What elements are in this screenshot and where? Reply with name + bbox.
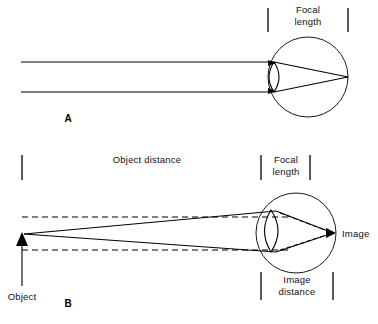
panel-a-lens [269, 62, 279, 92]
panel-b-eyeball [256, 193, 336, 273]
panel-a-label: A [64, 113, 71, 124]
panel-a-group: Focal length A [21, 4, 348, 124]
panel-b-object-distance-label: Object distance [113, 154, 181, 165]
panel-b-object-ray-lower [24, 234, 276, 252]
panel-a-focal-length-label-line2: length [294, 16, 321, 27]
panel-b-focal-length-label-line2: length [272, 166, 299, 177]
panel-b-image-label: Image [342, 228, 369, 239]
panel-b-refracted-ray-lower [276, 233, 333, 252]
eye-ray-diagram: Focal length A Object distance [0, 0, 378, 324]
panel-b-refracted-ray-upper [276, 211, 333, 233]
panel-a-refracted-ray-bottom [274, 77, 348, 92]
panel-a-focal-length-label-line1: Focal [296, 4, 320, 15]
panel-a-refracted-ray-top [274, 62, 348, 77]
panel-b-object-label: Object [8, 291, 37, 302]
panel-a-eyeball [268, 37, 348, 117]
panel-b-image-arrow-head [326, 228, 336, 238]
panel-b-image-distance-label-line2: distance [279, 286, 316, 297]
panel-b-label: B [64, 298, 71, 309]
optics-figure: Focal length A Object distance [0, 0, 378, 324]
panel-b-image-distance-label-line1: Image [283, 274, 310, 285]
panel-b-group: Object distance Focal length [8, 154, 370, 309]
panel-b-lens [265, 210, 279, 252]
panel-b-focal-length-label-line1: Focal [274, 154, 298, 165]
panel-b-object-ray-upper [24, 211, 276, 234]
